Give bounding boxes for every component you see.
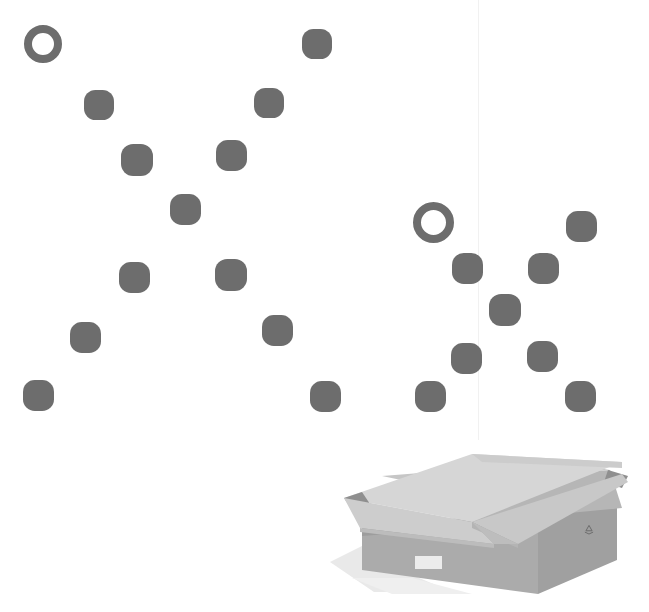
scatter-dot (119, 262, 150, 293)
scatter-dot (262, 315, 293, 346)
scatter-dot (215, 259, 247, 291)
scatter-dot (451, 343, 482, 374)
scatter-dot (216, 140, 247, 171)
scatter-dot (23, 380, 54, 411)
scatter-dot (84, 90, 114, 120)
vertical-guide (478, 0, 479, 440)
scatter-dot (452, 253, 483, 284)
scatter-dot (527, 341, 558, 372)
scatter-dot (170, 194, 201, 225)
scatter-dot (489, 294, 521, 326)
scatter-dot (415, 381, 446, 412)
scatter-dot (528, 253, 559, 284)
scatter-dot (302, 29, 332, 59)
shipping-label (415, 556, 442, 569)
scatter-dot (70, 322, 101, 353)
scatter-dot (566, 211, 597, 242)
scatter-dot (565, 381, 596, 412)
scatter-dot (254, 88, 284, 118)
scatter-dot (121, 144, 153, 176)
open-cardboard-box (322, 452, 642, 612)
scatter-ring (413, 202, 454, 243)
scatter-dot (310, 381, 341, 412)
canvas-stage (0, 0, 649, 612)
scatter-ring (24, 25, 62, 63)
